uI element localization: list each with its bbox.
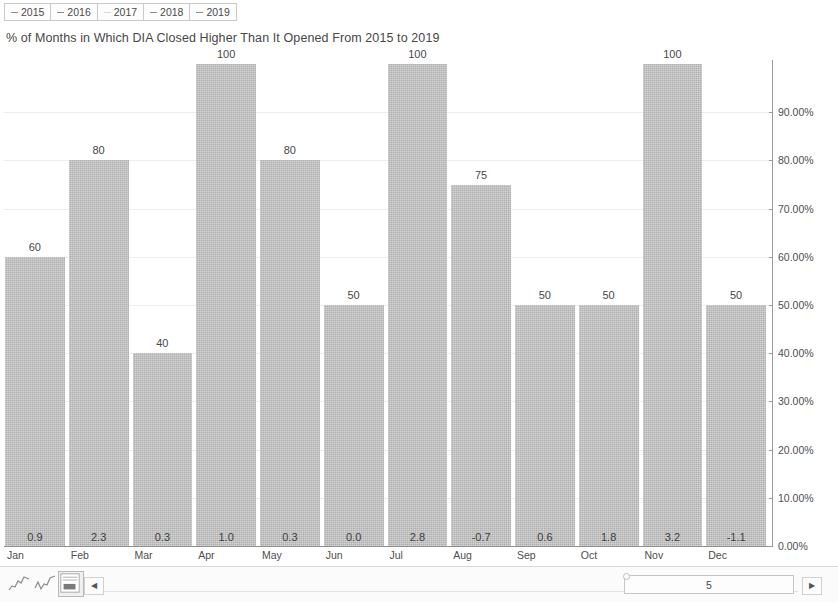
legend-item-2017[interactable]: 2017 — [97, 3, 144, 21]
bar[interactable]: 0.6 — [515, 305, 575, 546]
bar[interactable]: 3.2 — [643, 64, 703, 546]
legend-line-marker-icon — [196, 12, 203, 13]
y-axis-tick-mark — [769, 257, 773, 258]
bar-column-feb[interactable]: 2.380 — [69, 50, 129, 546]
sheet-tab-line-chart-thumbnail-2[interactable] — [32, 571, 58, 597]
bar-column-aug[interactable]: -0.775 — [451, 50, 511, 546]
bar-chart-icon — [59, 572, 81, 594]
x-axis-category-label: Dec — [708, 549, 727, 561]
y-axis-tick-label: 60.00% — [778, 251, 814, 263]
legend-item-label: 2016 — [67, 7, 90, 18]
bar-top-value-label: 80 — [69, 144, 129, 156]
bar-column-jul[interactable]: 2.8100 — [388, 50, 448, 546]
x-axis-category-label: Aug — [453, 549, 472, 561]
horizontal-scrollbar-thumb[interactable]: 5 — [624, 575, 794, 594]
legend-item-label: 2015 — [21, 7, 44, 18]
x-axis-category-label: Feb — [71, 549, 89, 561]
bar-top-value-label: 60 — [5, 241, 65, 253]
legend-item-2015[interactable]: 2015 — [4, 3, 51, 21]
bar[interactable]: -1.1 — [706, 305, 766, 546]
bar[interactable]: 0.9 — [5, 257, 65, 546]
bar[interactable]: 2.3 — [69, 160, 129, 546]
x-axis-category-label: May — [262, 549, 282, 561]
bar-inner-value-label: 0.9 — [5, 531, 65, 543]
bar-top-value-label: 40 — [133, 337, 193, 349]
legend-item-label: 2017 — [114, 7, 137, 18]
x-axis-category-label: Jul — [390, 549, 403, 561]
y-axis-tick-mark — [769, 450, 773, 451]
scroll-right-button[interactable]: ▶ — [802, 577, 822, 595]
y-axis-tick-mark — [769, 112, 773, 113]
legend-item-2019[interactable]: 2019 — [189, 3, 236, 21]
x-axis-category-label: Sep — [517, 549, 536, 561]
chart-plot-area: 0.9602.3800.3401.01000.3800.0502.8100-0.… — [0, 50, 838, 562]
y-axis-tick-label: 70.00% — [778, 203, 814, 215]
sheet-tab-bar-chart-thumbnail-3[interactable] — [58, 571, 84, 597]
y-axis-tick-label: 80.00% — [778, 154, 814, 166]
scrollbar-thumb-value: 5 — [706, 579, 712, 591]
legend-item-2016[interactable]: 2016 — [50, 3, 97, 21]
y-axis-tick-label: 50.00% — [778, 299, 814, 311]
bar-inner-value-label: 3.2 — [643, 531, 703, 543]
bar[interactable]: 0.0 — [324, 305, 384, 546]
y-axis-tick-label: 40.00% — [778, 347, 814, 359]
y-axis-tick-label: 10.00% — [778, 492, 814, 504]
bar-column-jan[interactable]: 0.960 — [5, 50, 65, 546]
bar-top-value-label: 50 — [579, 289, 639, 301]
bar-inner-value-label: 0.6 — [515, 531, 575, 543]
line-chart-icon — [7, 572, 31, 596]
bar-column-nov[interactable]: 3.2100 — [643, 50, 703, 546]
scroll-left-button[interactable]: ◀ — [84, 577, 104, 595]
bar-top-value-label: 50 — [324, 289, 384, 301]
legend-line-marker-icon — [11, 12, 18, 13]
bar-column-oct[interactable]: 1.850 — [579, 50, 639, 546]
y-axis-tick-mark — [769, 353, 773, 354]
x-axis-category-label: Jun — [326, 549, 343, 561]
bar-top-value-label: 100 — [643, 48, 703, 60]
x-axis-category-label: Apr — [198, 549, 214, 561]
y-axis-tick-label: 30.00% — [778, 395, 814, 407]
bar[interactable]: 2.8 — [388, 64, 448, 546]
bar-inner-value-label: -1.1 — [706, 531, 766, 543]
y-axis-tick-mark — [769, 209, 773, 210]
sheet-tab-line-chart-thumbnail-1[interactable] — [6, 571, 32, 597]
legend-line-marker-icon — [57, 12, 64, 13]
bar-column-mar[interactable]: 0.340 — [133, 50, 193, 546]
y-axis-tick-mark — [769, 498, 773, 499]
bar[interactable]: 1.8 — [579, 305, 639, 546]
bar[interactable]: 0.3 — [133, 353, 193, 546]
legend-item-2018[interactable]: 2018 — [143, 3, 190, 21]
line-chart-icon — [33, 572, 57, 596]
bar[interactable]: 1.0 — [196, 64, 256, 546]
y-axis-tick-mark — [769, 401, 773, 402]
legend-item-label: 2019 — [206, 7, 229, 18]
bar-column-jun[interactable]: 0.050 — [324, 50, 384, 546]
bar-column-apr[interactable]: 1.0100 — [196, 50, 256, 546]
chart-legend: 20152016201720182019 — [4, 3, 236, 21]
bar-top-value-label: 100 — [388, 48, 448, 60]
y-axis-tick-label: 20.00% — [778, 444, 814, 456]
bottom-toolbar: ◀ 5 ▶ — [0, 566, 838, 602]
legend-item-label: 2018 — [160, 7, 183, 18]
y-axis-tick-mark — [769, 160, 773, 161]
legend-line-marker-icon — [150, 12, 157, 13]
bar-column-dec[interactable]: -1.150 — [706, 50, 766, 546]
bar-column-may[interactable]: 0.380 — [260, 50, 320, 546]
bar-column-sep[interactable]: 0.650 — [515, 50, 575, 546]
bar-inner-value-label: -0.7 — [451, 531, 511, 543]
bar-inner-value-label: 1.0 — [196, 531, 256, 543]
bar-top-value-label: 80 — [260, 144, 320, 156]
x-axis-category-label: Nov — [645, 549, 664, 561]
bar-inner-value-label: 2.3 — [69, 531, 129, 543]
bar-inner-value-label: 1.8 — [579, 531, 639, 543]
chart-title: % of Months in Which DIA Closed Higher T… — [6, 31, 440, 45]
scrollbar-resize-grip[interactable] — [623, 573, 630, 580]
bar-series: 0.9602.3800.3401.01000.3800.0502.8100-0.… — [0, 50, 838, 562]
bar-top-value-label: 50 — [515, 289, 575, 301]
bar-inner-value-label: 0.0 — [324, 531, 384, 543]
sheet-tab-strip[interactable] — [6, 571, 84, 597]
bar[interactable]: -0.7 — [451, 185, 511, 547]
x-axis-category-label: Jan — [7, 549, 24, 561]
y-axis-tick-label: 0.00% — [778, 540, 808, 552]
bar[interactable]: 0.3 — [260, 160, 320, 546]
